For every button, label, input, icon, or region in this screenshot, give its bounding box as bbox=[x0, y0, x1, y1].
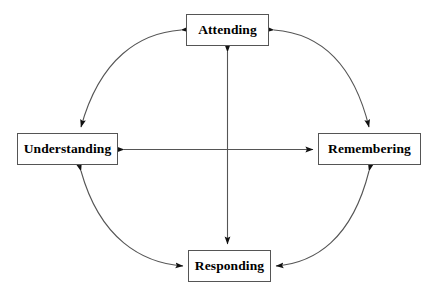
arc-understanding-responding bbox=[81, 171, 183, 266]
node-attending-label: Attending bbox=[198, 22, 257, 38]
arc-attending-remembering bbox=[274, 30, 369, 127]
node-responding: Responding bbox=[188, 250, 271, 282]
node-remembering: Remembering bbox=[318, 133, 421, 165]
node-attending: Attending bbox=[186, 14, 269, 46]
arc-attending-understanding bbox=[81, 30, 181, 127]
cycle-diagram: Attending Understanding Remembering Resp… bbox=[0, 0, 436, 293]
node-understanding: Understanding bbox=[17, 133, 118, 165]
arc-remembering-responding bbox=[276, 171, 369, 266]
node-responding-label: Responding bbox=[195, 258, 264, 274]
node-remembering-label: Remembering bbox=[328, 141, 411, 157]
node-understanding-label: Understanding bbox=[24, 141, 112, 157]
